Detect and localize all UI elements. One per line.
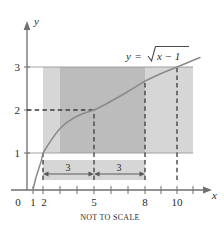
- x-tick-label-5: 5: [91, 196, 97, 208]
- y-axis-label: y: [33, 15, 39, 27]
- graph-svg: y x 0 1 2 5 8 10 1 2 3 3 3 y = x − 1 NOT…: [0, 0, 224, 231]
- curve-label-lhs: y: [125, 50, 131, 62]
- x-tick-label-10: 10: [172, 196, 184, 208]
- measurement-label-left: 3: [66, 162, 71, 173]
- x-tick-label-2: 2: [41, 196, 47, 208]
- y-axis-arrowhead: [24, 21, 31, 30]
- y-tick-label-1: 1: [15, 147, 21, 159]
- curve-equation-label: y = x − 1: [125, 47, 189, 63]
- inner-band-dark: [60, 67, 145, 153]
- x-axis-arrowhead: [203, 187, 212, 194]
- y-tick-label-3: 3: [15, 61, 21, 73]
- y-tick-label-2: 2: [15, 104, 21, 116]
- not-to-scale-note: NOT TO SCALE: [80, 213, 140, 222]
- x-tick-label-0: 0: [15, 196, 21, 208]
- curve-label-radicand: x − 1: [156, 50, 180, 62]
- x-tick-label-1: 1: [30, 196, 36, 208]
- x-axis-label: x: [211, 189, 217, 201]
- x-tick-label-8: 8: [142, 196, 148, 208]
- figure-container: y x 0 1 2 5 8 10 1 2 3 3 3 y = x − 1 NOT…: [0, 0, 224, 231]
- curve-label-equals: =: [135, 50, 141, 62]
- measurement-label-right: 3: [117, 162, 122, 173]
